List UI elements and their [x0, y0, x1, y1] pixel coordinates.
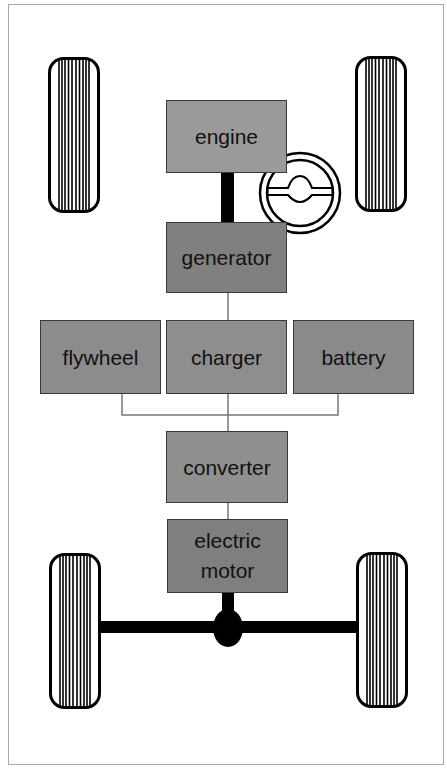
tire-icon-rear-right — [358, 554, 407, 707]
generator-label: generator — [182, 245, 272, 270]
generator-box: generator — [166, 222, 287, 293]
engine-box: engine — [166, 100, 287, 173]
converter-label: converter — [183, 455, 271, 480]
flywheel-box: flywheel — [40, 320, 161, 394]
charger-label: charger — [191, 345, 262, 370]
electric-motor-label-line2: motor — [201, 556, 255, 586]
tire-icon-front-left — [50, 59, 99, 212]
electric-motor-box: electric motor — [167, 519, 288, 593]
charger-box: charger — [166, 320, 287, 394]
converter-box: converter — [166, 431, 288, 503]
battery-label: battery — [321, 345, 385, 370]
differential-icon — [213, 609, 243, 647]
tire-icon-rear-left — [51, 555, 100, 708]
flywheel-label: flywheel — [63, 345, 139, 370]
engine-shaft — [221, 173, 234, 223]
electric-motor-label-line1: electric — [194, 526, 261, 556]
tire-icon-front-right — [357, 58, 406, 211]
rear-axle — [100, 593, 357, 647]
battery-box: battery — [293, 320, 414, 394]
engine-label: engine — [195, 124, 258, 149]
